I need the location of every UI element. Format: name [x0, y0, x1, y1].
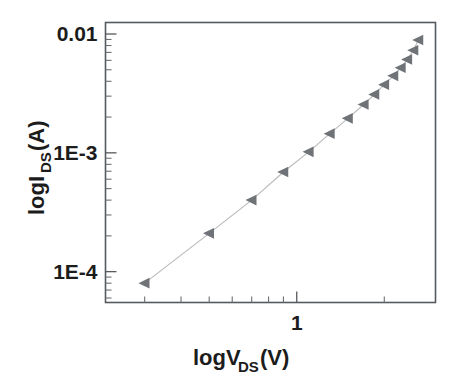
data-point-marker [412, 35, 423, 46]
x-axis-tick-labels: 1 [291, 311, 303, 334]
chart-figure: 0.011E-31E-4 1 logI DS (A) logV DS (V) [0, 0, 453, 384]
y-axis-title: logI DS (A) [24, 120, 54, 215]
plot-frame [106, 23, 436, 303]
y-tick-label: 1E-3 [53, 141, 97, 164]
x-axis-title-unit: (V) [260, 345, 289, 370]
y-axis-title-base: logI [24, 176, 49, 215]
data-point-marker [407, 45, 418, 56]
x-axis-title: logV DS (V) [193, 345, 289, 375]
y-tick-label: 1E-4 [53, 260, 98, 283]
y-axis-title-unit: (A) [24, 120, 49, 151]
x-axis-title-base: logV [193, 345, 241, 370]
data-point-marker [138, 278, 149, 289]
y-axis-tick-labels: 0.011E-31E-4 [53, 22, 98, 283]
loglog-plot-svg: 0.011E-31E-4 1 logI DS (A) logV DS (V) [0, 0, 453, 384]
y-axis-title-subscript: DS [37, 152, 54, 173]
series-markers [138, 35, 423, 289]
y-axis-ticks [106, 34, 117, 298]
data-point-marker [378, 79, 389, 90]
data-point-marker [401, 54, 412, 65]
x-tick-label: 1 [291, 311, 303, 334]
x-axis-ticks [145, 292, 385, 303]
y-tick-label: 0.01 [57, 22, 98, 45]
x-axis-title-subscript: DS [238, 358, 259, 375]
series-line [145, 40, 419, 283]
